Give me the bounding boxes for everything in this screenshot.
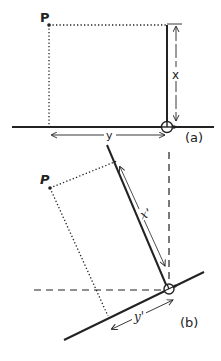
caption-a: (a)	[185, 130, 203, 145]
diagram-canvas: P x y (a) P x' y	[0, 0, 221, 361]
y-prime-label-b: y'	[133, 310, 144, 324]
tilted-rod-b	[107, 145, 167, 287]
caption-b: (b)	[180, 315, 198, 330]
point-p-label-b: P	[40, 172, 50, 187]
panel-a: P x y (a)	[12, 10, 214, 145]
dotted-to-axis-b	[50, 188, 108, 316]
panel-b: P x' y' (b)	[34, 145, 204, 340]
point-p-label-a: P	[40, 10, 50, 25]
x-label-a: x	[172, 68, 179, 82]
dotted-to-rod-b	[50, 161, 117, 188]
y-label-a: y	[106, 129, 113, 142]
